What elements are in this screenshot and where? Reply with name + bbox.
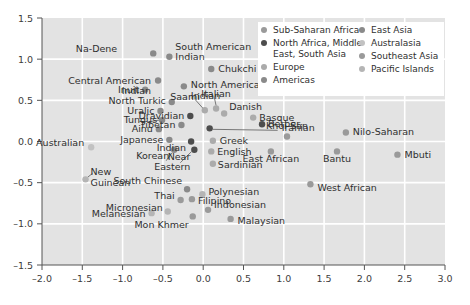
point-label: Near — [168, 151, 191, 162]
point-label: Australian — [36, 137, 84, 148]
data-point[interactable] — [213, 105, 219, 111]
data-point[interactable] — [165, 208, 171, 214]
data-point[interactable] — [150, 50, 156, 56]
data-point[interactable] — [205, 207, 211, 213]
data-point[interactable] — [221, 110, 227, 116]
point-label: Sardinian — [218, 159, 263, 170]
legend-marker — [359, 53, 365, 59]
point-label: Mbuti — [404, 149, 431, 160]
data-point[interactable] — [88, 144, 94, 150]
x-tick-label: 0.5 — [236, 273, 251, 284]
legend-marker — [359, 66, 365, 72]
legend-label: Sub-Saharan Africa — [273, 25, 359, 35]
point-label: Ainu — [132, 123, 153, 134]
legend-marker — [359, 40, 365, 46]
x-tick-label: 1.5 — [317, 273, 332, 284]
legend-marker — [261, 64, 267, 70]
data-point[interactable] — [177, 197, 183, 203]
point-label: Khoi-San — [266, 120, 308, 131]
x-tick-label: –0.5 — [153, 273, 173, 284]
point-label: Melanesian — [92, 208, 146, 219]
legend-label: Australasia — [371, 38, 421, 48]
x-tick-label: 3.0 — [437, 273, 452, 284]
y-tick-label: –1.5 — [13, 260, 33, 271]
data-point[interactable] — [227, 216, 233, 222]
legend-marker — [261, 40, 267, 46]
x-tick-label: 0.0 — [196, 273, 211, 284]
data-point[interactable] — [178, 122, 184, 128]
data-point[interactable] — [155, 77, 161, 83]
x-tick-label: –1.5 — [72, 273, 92, 284]
point-label: West African — [317, 182, 377, 193]
point-label: South American — [175, 41, 251, 52]
data-point[interactable] — [189, 196, 195, 202]
y-tick-label: 0.0 — [18, 136, 33, 147]
x-tick-label: 2.5 — [397, 273, 412, 284]
legend: Sub-Saharan AfricaNorth Africa, MiddleEa… — [258, 22, 444, 96]
legend-label: Pacific Islands — [371, 64, 434, 74]
chart-canvas: –2.0–1.5–1.0–0.50.00.51.01.52.02.53.01.5… — [0, 0, 470, 305]
scatter-chart: –2.0–1.5–1.0–0.50.00.51.01.52.02.53.01.5… — [0, 0, 470, 305]
point-label: Saami — [170, 91, 200, 102]
data-point[interactable] — [202, 107, 208, 113]
data-point[interactable] — [284, 133, 290, 139]
point-label: Italian — [201, 88, 230, 99]
data-point[interactable] — [191, 147, 197, 153]
data-point[interactable] — [184, 186, 190, 192]
x-tick-label: 1.0 — [276, 273, 291, 284]
y-tick-label: 1.5 — [18, 13, 33, 24]
point-label: New — [91, 166, 112, 177]
data-point[interactable] — [181, 83, 187, 89]
legend-label: Americas — [273, 75, 315, 85]
data-point[interactable] — [82, 176, 88, 182]
point-label: South Chinese — [113, 175, 182, 186]
data-point[interactable] — [206, 125, 212, 131]
point-label: Eastern — [154, 161, 190, 172]
point-label: Inuit — [118, 84, 139, 95]
point-label: Nilo-Saharan — [353, 126, 414, 137]
point-label: Greek — [220, 135, 249, 146]
x-tick-label: –1.0 — [113, 273, 133, 284]
point-label: Indian — [175, 51, 204, 62]
point-label: Bantu — [323, 153, 351, 164]
data-point[interactable] — [307, 181, 313, 187]
x-tick-label: 2.0 — [357, 273, 372, 284]
point-label: Indonesian — [214, 199, 266, 210]
point-label: Na-Dene — [76, 43, 118, 54]
data-point[interactable] — [208, 66, 214, 72]
data-point[interactable] — [210, 137, 216, 143]
y-tick-label: 0.5 — [18, 95, 33, 106]
point-label: Thai — [153, 190, 174, 201]
legend-label: East Asia — [371, 25, 412, 35]
data-point[interactable] — [210, 161, 216, 167]
data-point[interactable] — [343, 129, 349, 135]
legend-label: Southeast Asia — [371, 51, 438, 61]
data-point[interactable] — [187, 113, 193, 119]
x-tick-label: –2.0 — [32, 273, 52, 284]
point-label: Korean — [136, 150, 169, 161]
data-point[interactable] — [166, 53, 172, 59]
data-point[interactable] — [250, 114, 256, 120]
point-label: Mon Khmer — [134, 219, 188, 230]
data-point[interactable] — [188, 138, 194, 144]
data-point[interactable] — [208, 148, 214, 154]
legend-marker — [359, 27, 365, 33]
y-tick-label: –1.0 — [13, 218, 33, 229]
y-tick-label: 1.0 — [18, 54, 33, 65]
point-label: Chukchi — [218, 63, 256, 74]
legend-marker — [261, 77, 267, 83]
point-label: Danish — [229, 101, 262, 112]
legend-label: Europe — [273, 62, 305, 72]
legend-label: North Africa, Middle — [273, 38, 363, 48]
data-point[interactable] — [190, 213, 196, 219]
data-point[interactable] — [394, 151, 400, 157]
point-label: Malaysian — [238, 215, 286, 226]
legend-marker — [261, 27, 267, 33]
legend-label: East, South Asia — [273, 49, 346, 59]
y-tick-label: –0.5 — [13, 177, 33, 188]
